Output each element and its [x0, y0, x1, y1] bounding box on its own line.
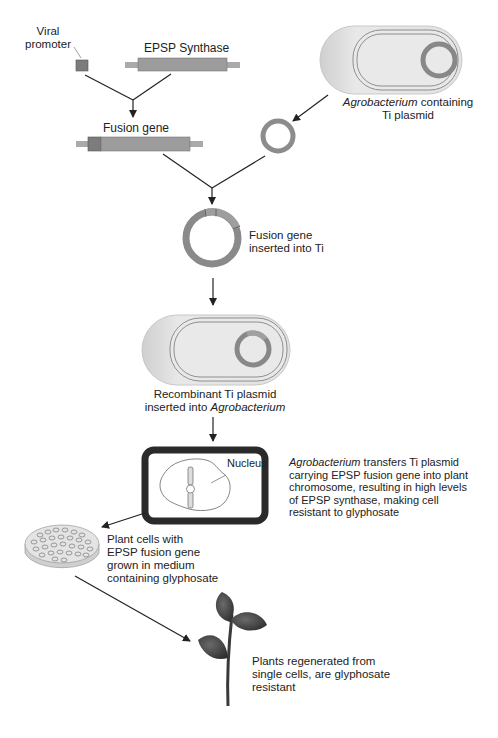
label-line: Plant cells with — [107, 533, 218, 546]
label-line: EPSP fusion gene — [107, 546, 218, 559]
label-line: Viral — [25, 25, 71, 38]
label-line: grown in medium — [107, 559, 218, 572]
label-line: chromosome, resulting in high levels — [289, 481, 468, 494]
label-line: containing glyphosate — [107, 572, 218, 585]
label-line: Agrobacterium containing — [328, 96, 488, 109]
label-line: Agrobacterium transfers Ti plasmid — [289, 456, 468, 469]
label-line: Fusion gene — [249, 229, 324, 242]
label-nucleus: Nucleus — [227, 457, 267, 470]
label-text: inserted into — [145, 401, 211, 413]
label-line: Plants regenerated from — [252, 655, 390, 668]
italic-term: Agrobacterium — [211, 401, 286, 413]
glyphosate-resistance-diagram: Viral promoter EPSP Synthase Fusion gene… — [0, 0, 498, 738]
arrow-to-plant — [75, 576, 190, 641]
ti-plasmid-icon — [263, 121, 293, 151]
recombinant-plasmid-icon — [186, 209, 240, 264]
label-fusion-inserted: Fusion gene inserted into Ti — [249, 229, 324, 255]
culture-dish-icon — [25, 525, 99, 568]
italic-term: Agrobacterium — [343, 96, 418, 108]
recombinant-agrobacterium-icon — [142, 315, 290, 385]
viral-promoter-icon — [74, 47, 88, 71]
label-line: promoter — [25, 38, 71, 51]
epsp-synthase-gene-icon — [125, 58, 240, 71]
label-line: carrying EPSP fusion gene into plant — [289, 469, 468, 482]
label-text: transfers Ti plasmid — [361, 456, 459, 468]
agrobacterium-icon — [320, 26, 462, 94]
label-text: containing — [418, 96, 474, 108]
extract-arrow — [293, 95, 328, 121]
label-agrobacterium-ti: Agrobacterium containing Ti plasmid — [328, 96, 488, 122]
label-epsp-synthase: EPSP Synthase — [144, 42, 229, 55]
label-line: inserted into Ti — [249, 242, 324, 255]
merge-arrow-1 — [85, 74, 171, 117]
merge-arrow-2 — [163, 154, 265, 204]
label-recombinant: Recombinant Ti plasmid inserted into Agr… — [135, 388, 295, 414]
label-plant-cells: Plant cells with EPSP fusion gene grown … — [107, 533, 218, 585]
label-line: resistant to glyphosate — [289, 506, 468, 519]
label-line: inserted into Agrobacterium — [135, 401, 295, 414]
label-line: resistant — [252, 681, 390, 694]
label-transfer: Agrobacterium transfers Ti plasmid carry… — [289, 456, 468, 519]
arrow-to-dish — [102, 513, 145, 527]
label-viral-promoter: Viral promoter — [25, 25, 71, 51]
label-line: single cells, are glyphosate — [252, 668, 390, 681]
label-line: Recombinant Ti plasmid — [135, 388, 295, 401]
label-fusion-gene: Fusion gene — [103, 122, 169, 135]
fusion-gene-icon — [76, 137, 203, 151]
label-plants-regenerated: Plants regenerated from single cells, ar… — [252, 655, 390, 694]
italic-term: Agrobacterium — [289, 456, 361, 468]
label-line: of EPSP synthase, making cell — [289, 494, 468, 507]
label-line: Ti plasmid — [328, 109, 488, 122]
